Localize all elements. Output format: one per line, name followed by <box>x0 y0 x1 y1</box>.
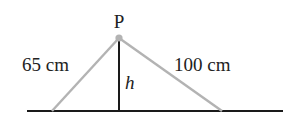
point-p-dot <box>115 34 122 41</box>
height-label: h <box>125 72 135 93</box>
point-label: P <box>114 11 125 32</box>
right-length-label: 100 cm <box>174 54 231 75</box>
string-triangle-diagram: P 65 cm 100 cm h <box>0 0 288 125</box>
left-length-label: 65 cm <box>22 54 69 75</box>
